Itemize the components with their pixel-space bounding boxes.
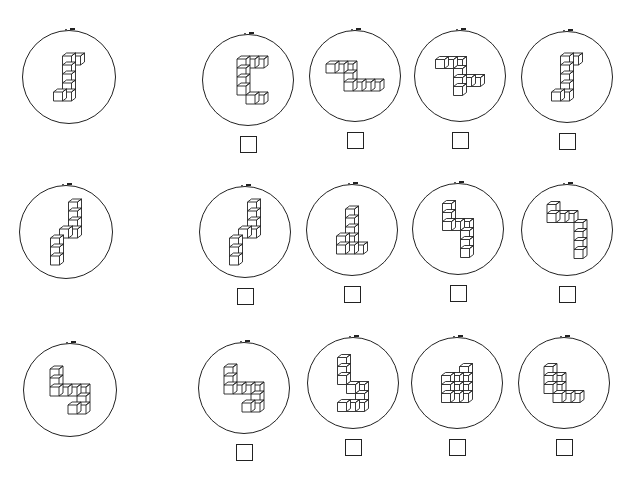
block-figure [442, 364, 473, 403]
block-figure [443, 201, 474, 258]
block-figure [544, 364, 584, 403]
block-figure [337, 206, 368, 254]
block-figure-step-icon [412, 183, 504, 275]
option-figure-row-2-3 [412, 183, 504, 275]
mental-rotation-test [0, 0, 640, 489]
answer-checkbox-row-1-2[interactable] [347, 132, 364, 149]
answer-checkbox-row-3-4[interactable] [556, 439, 573, 456]
answer-checkbox-row-3-3[interactable] [449, 439, 466, 456]
option-figure-row-1-2 [309, 30, 401, 122]
block-figure-hook-tall-icon [307, 337, 399, 429]
block-figure-hook-icon [23, 343, 117, 437]
block-figure [326, 61, 384, 91]
answer-checkbox-row-2-3[interactable] [450, 285, 467, 302]
answer-checkbox-row-3-1[interactable] [236, 444, 253, 461]
block-figure [50, 366, 90, 414]
answer-checkbox-row-3-2[interactable] [345, 439, 362, 456]
block-figure [237, 56, 268, 104]
block-figure-zigzag-icon [199, 186, 291, 278]
block-figure-zigzag-icon [19, 185, 113, 279]
block-figure-step-long-icon [521, 184, 613, 276]
block-figure-c-shape-icon [202, 34, 294, 126]
answer-checkbox-row-2-4[interactable] [559, 286, 576, 303]
block-figure-z-shape-icon [309, 30, 401, 122]
option-figure-row-1-4 [521, 31, 613, 123]
answer-checkbox-row-1-4[interactable] [559, 133, 576, 150]
block-figure [54, 53, 85, 101]
block-figure-s-shape-icon [22, 30, 116, 124]
block-figure-l-shape-icon [518, 337, 610, 429]
block-figure [51, 199, 82, 265]
answer-checkbox-row-1-1[interactable] [240, 136, 257, 153]
block-figure [338, 355, 369, 412]
reference-figure-row-1 [22, 30, 116, 124]
option-figure-row-1-1 [202, 34, 294, 126]
option-figure-row-1-3 [414, 30, 506, 122]
block-figure-stacked-icon [411, 337, 503, 429]
block-figure [224, 364, 264, 412]
option-figure-row-2-1 [199, 186, 291, 278]
option-figure-row-3-4 [518, 337, 610, 429]
option-figure-row-2-4 [521, 184, 613, 276]
option-figure-row-3-3 [411, 337, 503, 429]
block-figure [547, 202, 587, 259]
block-figure-zigzag-tall-icon [306, 184, 398, 276]
reference-figure-row-2 [19, 185, 113, 279]
answer-checkbox-row-2-2[interactable] [344, 286, 361, 303]
reference-figure-row-3 [23, 343, 117, 437]
block-figure-s-shape-icon [521, 31, 613, 123]
block-figure [436, 57, 485, 96]
block-figure [230, 199, 261, 265]
block-figure-z-shape-tall-icon [414, 30, 506, 122]
answer-checkbox-row-1-3[interactable] [452, 132, 469, 149]
option-figure-row-3-1 [198, 342, 290, 434]
block-figure-hook-icon [198, 342, 290, 434]
option-figure-row-3-2 [307, 337, 399, 429]
block-figure [552, 53, 583, 101]
option-figure-row-2-2 [306, 184, 398, 276]
answer-checkbox-row-2-1[interactable] [237, 288, 254, 305]
